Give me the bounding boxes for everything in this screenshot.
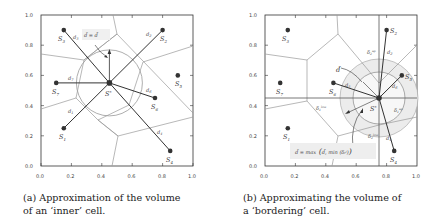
svg-text:0.8: 0.8 — [249, 42, 257, 48]
svg-text:S5: S5 — [175, 80, 182, 89]
svg-text:S6: S6 — [329, 88, 336, 97]
svg-text:S3: S3 — [282, 35, 289, 44]
svg-text:S3: S3 — [58, 35, 65, 44]
svg-text:0.0: 0.0 — [36, 173, 44, 179]
svg-text:δ2up: δ2up — [367, 49, 376, 56]
caption-b: (b) Approximating the volume of a ‘borde… — [243, 192, 438, 217]
svg-text:0.6: 0.6 — [128, 173, 136, 179]
caption-b-line1: (b) Approximating the volume of — [243, 192, 438, 205]
svg-text:1.0: 1.0 — [25, 12, 33, 18]
y-tick-labels: 0.00.20.40.60.81.0 — [25, 12, 33, 169]
svg-text:S*: S* — [105, 90, 111, 99]
svg-text:0.0: 0.0 — [249, 163, 257, 169]
voronoi-plot-a: 0.00.20.40.60.81.0 0.00.20.40.60.81.0 — [0, 0, 220, 190]
svg-text:δ1low: δ1low — [316, 105, 327, 112]
formula-text: d̃ = max (d̄, min (δᵢʲ)) — [295, 147, 352, 156]
svg-text:0.4: 0.4 — [97, 173, 105, 179]
svg-text:0.6: 0.6 — [249, 72, 257, 78]
voronoi-plot-b: 0.00.20.40.60.81.0 0.00.20.40.60.81.0 — [220, 0, 441, 190]
svg-text:S1: S1 — [283, 133, 290, 142]
svg-text:0.4: 0.4 — [321, 173, 329, 179]
svg-text:d3: d3 — [73, 34, 79, 41]
svg-text:d7: d7 — [68, 75, 74, 82]
caption-a: (a) Approximation of the volume of an ‘i… — [23, 192, 213, 217]
svg-text:S1: S1 — [59, 133, 66, 142]
svg-text:S2: S2 — [160, 35, 167, 44]
svg-text:S4: S4 — [166, 156, 173, 165]
svg-text:0.2: 0.2 — [67, 173, 75, 179]
svg-text:S2: S2 — [390, 27, 397, 36]
svg-text:1.0: 1.0 — [249, 12, 257, 18]
annotation-dbar: d̄ — [336, 66, 341, 74]
panel-b-bordering-cell: 0.00.20.40.60.81.0 0.00.20.40.60.81.0 — [220, 0, 441, 224]
svg-text:0.8: 0.8 — [25, 42, 33, 48]
svg-text:δ2low: δ2low — [368, 133, 379, 140]
svg-text:0.6: 0.6 — [25, 72, 33, 78]
x-tick-labels: 0.00.20.40.60.81.0 — [36, 173, 196, 179]
svg-text:d4: d4 — [157, 129, 162, 136]
svg-text:0.0: 0.0 — [260, 173, 268, 179]
svg-text:0.8: 0.8 — [158, 173, 166, 179]
svg-text:0.4: 0.4 — [249, 103, 257, 109]
panel-a-inner-cell: 0.00.20.40.60.81.0 0.00.20.40.60.81.0 — [0, 0, 220, 224]
svg-text:S7: S7 — [276, 88, 283, 97]
svg-text:S4: S4 — [390, 156, 397, 165]
caption-a-line2: of an ‘inner’ cell. — [23, 205, 213, 218]
svg-text:0.4: 0.4 — [25, 103, 33, 109]
svg-text:0.2: 0.2 — [291, 173, 299, 179]
svg-text:d1: d1 — [68, 108, 73, 115]
svg-text:1.0: 1.0 — [188, 173, 196, 179]
svg-text:0.0: 0.0 — [25, 163, 33, 169]
svg-text:S5: S5 — [405, 73, 412, 82]
caption-a-line1: (a) Approximation of the volume — [23, 192, 213, 205]
svg-text:0.6: 0.6 — [352, 173, 360, 179]
svg-text:0.8: 0.8 — [382, 173, 390, 179]
svg-text:d6: d6 — [146, 87, 152, 94]
svg-text:0.2: 0.2 — [249, 133, 257, 139]
distance-lines — [56, 30, 170, 151]
svg-text:d2: d2 — [387, 49, 393, 56]
svg-text:S6: S6 — [151, 103, 158, 112]
annotation-d-equals-dbar: d̃ = d̄ — [84, 32, 99, 38]
caption-b-line2: a ‘bordering’ cell. — [243, 205, 438, 218]
svg-text:0.2: 0.2 — [25, 133, 33, 139]
svg-text:1.0: 1.0 — [412, 173, 420, 179]
svg-text:d4: d4 — [386, 135, 391, 142]
svg-text:S7: S7 — [52, 88, 59, 97]
svg-text:d2: d2 — [146, 31, 152, 38]
